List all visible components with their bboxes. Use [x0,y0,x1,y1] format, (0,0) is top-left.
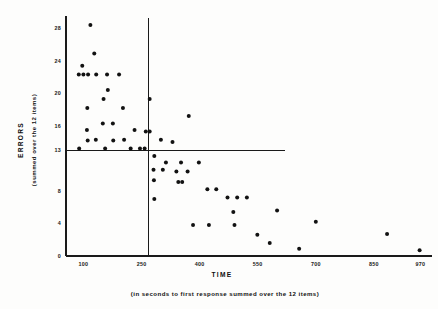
data-point [102,97,106,101]
y-tick-13: 13 [55,147,62,153]
y-tick-0: 0 [58,253,61,259]
data-point [94,138,98,142]
data-point [171,140,175,144]
data-point [122,138,126,142]
data-point [85,106,89,110]
data-point [152,154,156,158]
data-point [101,121,105,125]
data-point [187,114,191,118]
data-point [232,223,236,227]
x-tick-400: 400 [195,261,205,267]
data-point [81,73,85,77]
data-point [121,106,125,110]
data-point [152,168,156,172]
data-point [117,73,121,77]
data-point [180,180,184,184]
data-point [152,178,156,182]
y-axis-title: ERRORS [17,122,24,158]
y-axis-label-group: ERRORS (summed over the 12 items) [17,94,37,186]
data-point [179,160,183,164]
x-tick-250: 250 [137,261,147,267]
data-point [85,128,89,132]
x-tick-labels: 100250400550700850970 [79,261,426,267]
data-point [231,210,235,214]
data-point [105,73,109,77]
data-point [148,130,152,134]
y-tick-8: 8 [58,188,61,194]
data-point [103,147,107,151]
x-tick-850: 850 [369,261,379,267]
data-point [88,23,92,27]
y-tick-labels: 0481316202428 [55,25,62,259]
data-point [133,128,137,132]
data-point [214,187,218,191]
data-point [418,248,422,252]
data-point [255,233,259,237]
x-axis-caption: (in seconds to first response summed ove… [131,290,319,297]
data-point [80,64,84,68]
data-point [235,195,239,199]
data-point [205,187,209,191]
x-tick-700: 700 [311,261,321,267]
data-point [86,73,90,77]
data-point [314,220,318,224]
data-point [111,138,115,142]
data-point [207,223,211,227]
data-point [148,97,152,101]
data-point [144,130,148,134]
data-point [275,208,279,212]
scatter-plot: ERRORS (summed over the 12 items) 048131… [0,0,438,309]
data-point [159,138,163,142]
data-point [161,168,165,172]
data-point [143,147,147,151]
y-tick-16: 16 [55,123,62,129]
data-point [245,195,249,199]
data-point [197,160,201,164]
data-point [164,160,168,164]
data-point [191,223,195,227]
y-tick-4: 4 [58,220,61,226]
data-point [106,88,110,92]
figure-container: ERRORS (summed over the 12 items) 048131… [0,0,438,309]
data-point [226,195,230,199]
data-point [94,73,98,77]
data-point [268,241,272,245]
data-point [77,73,81,77]
x-tick-550: 550 [253,261,263,267]
data-point [186,169,190,173]
y-tick-28: 28 [55,25,62,31]
y-tick-24: 24 [55,58,62,64]
data-point [152,197,156,201]
data-point [297,247,301,251]
data-points [77,23,422,252]
data-point [138,147,142,151]
x-axis-title: TIME [212,271,233,278]
x-tick-100: 100 [79,261,89,267]
data-point [129,147,133,151]
data-point [174,169,178,173]
x-tick-970: 970 [416,261,426,267]
data-point [385,232,389,236]
reference-lines [66,18,285,256]
y-tick-20: 20 [55,90,62,96]
y-axis-subtitle: (summed over the 12 items) [31,94,37,186]
data-point [92,51,96,55]
data-point [86,138,90,142]
data-point [176,180,180,184]
data-point [77,147,81,151]
data-point [111,121,115,125]
